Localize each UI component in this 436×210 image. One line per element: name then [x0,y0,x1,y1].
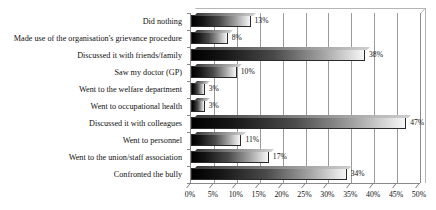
bar-value-label: 8% [232,31,242,44]
x-axis-tick-label: 40% [366,189,380,201]
category-axis-labels: Did nothingMade use of the organisation'… [0,13,186,183]
x-axis-tick [369,183,374,188]
x-axis-tick [346,183,351,188]
x-axis-tick [415,183,420,188]
category-label: Saw my doctor (GP) [114,64,182,81]
bar-value-label: 3% [209,99,219,112]
bar-row: 3% [191,98,420,115]
bar [191,134,241,146]
x-axis-tick [255,183,260,188]
x-axis-tick [392,183,397,188]
horizontal-bar-chart: Did nothingMade use of the organisation'… [0,0,436,210]
bar-row: 8% [191,30,420,47]
bar [191,151,269,163]
bar [191,117,406,129]
plot-area: 13%8%38%10%3%3%47%11%17%34% [190,13,420,184]
x-axis-tick [209,183,214,188]
category-label: Went to the union/staff association [69,149,182,166]
bar [191,66,237,78]
x-axis-tick [278,183,283,188]
bar-row: 34% [191,166,420,183]
x-axis-tick-label: 25% [297,189,311,201]
category-label: Discussed it with colleagues [89,115,182,132]
bar-value-label: 38% [369,48,383,61]
x-axis-tick-label: 50% [412,189,426,201]
category-label: Made use of the organisation's grievance… [14,30,182,47]
bar-row: 17% [191,149,420,166]
x-axis-tick-label: 15% [252,189,266,201]
bar-value-label: 34% [351,167,365,180]
x-axis-tick-label: 20% [274,189,288,201]
x-axis-tick-label: 0% [185,189,195,201]
x-axis-tick-label: 35% [343,189,357,201]
x-axis-tick [323,183,328,188]
bar [191,15,251,27]
bar [191,49,365,61]
category-label: Went to the welfare department [79,81,182,98]
bar [191,100,205,112]
bar-value-label: 13% [255,14,269,27]
category-label: Went to occupational health [91,98,182,115]
x-axis-tick-label: 10% [229,189,243,201]
x-axis-tick-label: 5% [208,189,218,201]
bar-row: 47% [191,115,420,132]
x-axis-tick-label: 30% [320,189,334,201]
category-label: Discussed it with friends/family [77,47,182,64]
bar-row: 38% [191,47,420,64]
bar-value-label: 17% [273,150,287,163]
category-label: Went to personnel [123,132,182,149]
bar-value-label: 3% [209,82,219,95]
category-label: Did nothing [143,13,182,30]
category-label: Confronted the bully [114,166,182,183]
x-axis-tick [301,183,306,188]
bar-row: 10% [191,64,420,81]
bar [191,168,347,180]
bar-row: 11% [191,132,420,149]
bar-row: 13% [191,13,420,30]
bar-value-label: 47% [410,116,424,129]
bar-row: 3% [191,81,420,98]
gridline [420,13,421,183]
x-axis-tick-label: 45% [389,189,403,201]
bar [191,32,228,44]
bar-value-label: 10% [241,65,255,78]
bar-value-label: 11% [245,133,259,146]
x-axis-tick [232,183,237,188]
x-axis-labels: 0%5%10%15%20%25%30%35%40%45%50% [0,189,436,203]
bar [191,83,205,95]
